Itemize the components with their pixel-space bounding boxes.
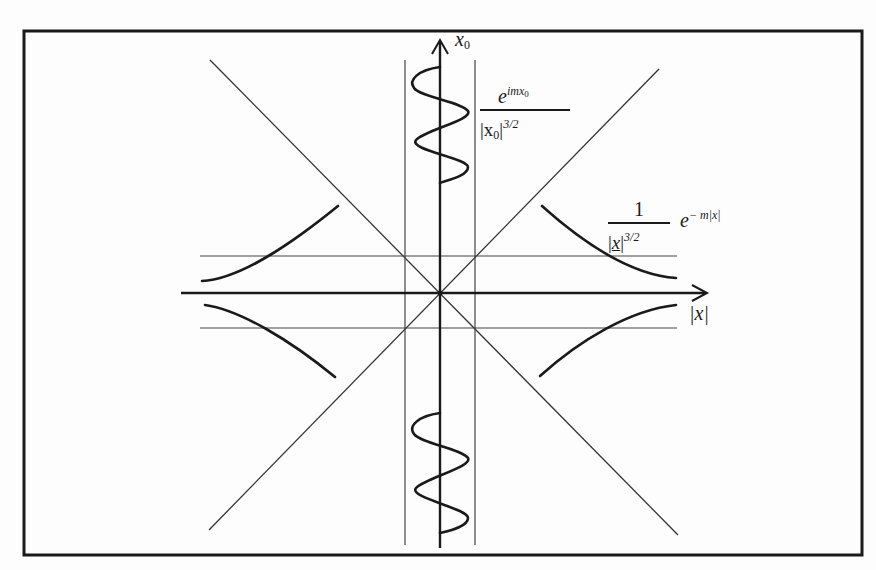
spacelike-exp-formula: e− m|x| [680, 208, 721, 232]
timelike-asymptotic-formula: eimx0 |x0|3/2 [480, 80, 570, 146]
timelike-exp-base: e [498, 85, 507, 107]
space-axis-label-text: |x| [689, 302, 709, 324]
spacelike-var: x [612, 232, 620, 253]
decay-curve-lower-right [540, 305, 676, 376]
time-axis-label-main: x [455, 28, 464, 50]
spacelike-fraction-bar [608, 222, 670, 224]
light-cone-diagonal-1 [210, 60, 678, 535]
time-axis-label-sub: 0 [464, 38, 470, 52]
decay-curve-upper-left [202, 206, 338, 281]
decay-curve-lower-left [205, 305, 335, 377]
spacelike-power-formula: 1 |x|3/2 [608, 198, 670, 254]
spacelike-denominator-exp: 3/2 [624, 230, 639, 244]
spacelike-numerator: 1 [608, 198, 670, 220]
spacelike-exp-base: e [680, 209, 689, 231]
timelike-fraction-bar [480, 109, 570, 111]
timelike-denominator: |x0|3/2 [480, 113, 570, 146]
spacelike-denominator: |x|3/2 [608, 226, 670, 254]
timelike-exp-power-sub: 0 [524, 89, 529, 99]
origin-point [438, 291, 443, 296]
space-axis-label: |x| [689, 302, 709, 325]
timelike-denominator-exp: 3/2 [503, 117, 518, 131]
propagator-diagram [0, 0, 876, 570]
time-axis-label: x0 [455, 28, 470, 53]
timelike-denominator-abs: |x [480, 119, 493, 140]
light-cone-diagonal-2 [209, 69, 659, 530]
timelike-numerator: eimx0 [480, 80, 570, 107]
timelike-exp-power: imx [507, 84, 524, 98]
spacelike-exp-power: − m|x| [689, 208, 721, 222]
